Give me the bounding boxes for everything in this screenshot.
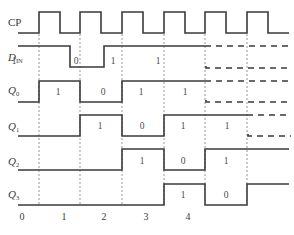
q3-waveform [18,184,289,205]
q0-waveform [18,81,205,102]
q0-value: 1 [183,87,188,97]
q0-value: 0 [101,87,106,97]
label-q2: Q2 [8,155,19,168]
q1-waveform [18,115,247,136]
q1-value: 1 [225,121,230,131]
label-q0: Q0 [8,84,19,97]
tick-label: 0 [20,211,25,222]
q2-values: 1 0 1 [140,156,229,166]
label-q3: Q3 [8,188,19,201]
label-q1: Q1 [8,120,19,133]
tick-label: 3 [144,211,149,222]
din-value: 1 [12,56,17,66]
cp-waveform [18,12,289,33]
din-dashed-low [206,66,291,68]
q2-value: 0 [181,156,186,166]
din-value: 0 [74,56,79,66]
q1-value: 1 [98,121,103,131]
signal-labels: CP DIN Q0 Q1 Q2 Q3 [7,16,23,201]
timing-diagram: CP DIN Q0 Q1 Q2 Q3 1 0 1 1 1 0 1 1 1 0 1… [0,0,294,235]
q0-value: 1 [139,87,144,97]
q2-value: 1 [224,156,229,166]
q1-value: 1 [181,121,186,131]
q0-dashed-low [206,100,291,102]
tick-label: 2 [102,211,107,222]
label-cp: CP [8,16,21,28]
din-values: 1 0 1 1 [12,56,161,66]
din-value: 1 [111,56,116,66]
q3-value: 0 [224,190,229,200]
tick-label: 4 [186,211,191,222]
q1-value: 0 [140,121,145,131]
din-value: 1 [156,56,161,66]
clock-tick-labels: 0 1 2 3 4 [20,211,191,222]
q3-value: 1 [181,190,186,200]
q2-value: 1 [140,156,145,166]
q1-dashed-low [248,134,291,136]
tick-label: 1 [62,211,67,222]
q2-waveform [18,149,289,170]
q0-value: 1 [56,87,61,97]
